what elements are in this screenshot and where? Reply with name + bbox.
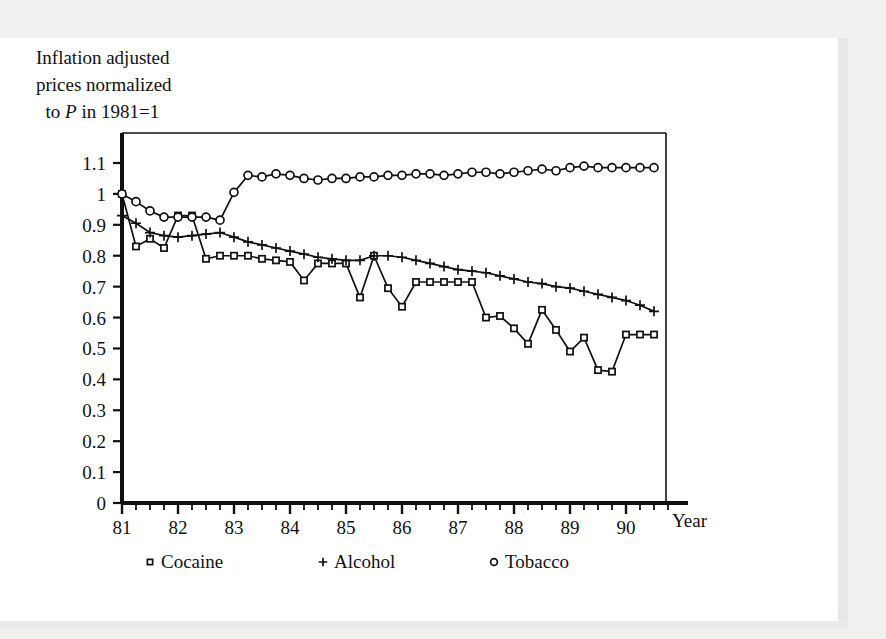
marker-circle xyxy=(412,170,420,178)
marker-circle xyxy=(608,164,616,172)
marker-circle xyxy=(552,167,560,175)
marker-square xyxy=(469,279,475,285)
chart-figure: Inflation adjusted prices normalized to … xyxy=(0,0,886,639)
marker-circle xyxy=(566,164,574,172)
marker-square xyxy=(553,327,559,333)
marker-square xyxy=(483,314,489,320)
series-tobacco xyxy=(118,162,658,224)
marker-circle xyxy=(118,190,126,198)
legend-label: Alcohol xyxy=(334,551,395,572)
marker-circle xyxy=(188,213,196,221)
x-tick-label: 81 xyxy=(113,517,132,538)
marker-plus xyxy=(257,240,267,250)
marker-square xyxy=(525,341,531,347)
y-tick-label: 0.5 xyxy=(82,338,106,359)
legend-item-tobacco: Tobacco xyxy=(491,551,569,572)
marker-circle xyxy=(440,171,448,179)
y-tick-label: 0.4 xyxy=(82,369,106,390)
marker-plus xyxy=(243,237,253,247)
y-tick-label: 0.2 xyxy=(82,431,106,452)
marker-square xyxy=(581,335,587,341)
marker-circle xyxy=(622,164,630,172)
y-axis-tick-labels: 00.10.20.30.40.50.60.70.80.911.1 xyxy=(82,153,106,514)
marker-circle xyxy=(174,213,182,221)
marker-square xyxy=(399,304,405,310)
marker-square xyxy=(595,367,601,373)
marker-circle xyxy=(286,171,294,179)
legend-item-cocaine: Cocaine xyxy=(147,551,223,572)
marker-square xyxy=(511,325,517,331)
y-tick-label: 0.1 xyxy=(82,462,106,483)
marker-square xyxy=(455,279,461,285)
marker-plus xyxy=(565,283,575,293)
axes xyxy=(122,133,688,503)
marker-plus xyxy=(649,306,659,316)
marker-plus xyxy=(201,229,211,239)
marker-circle xyxy=(594,164,602,172)
marker-plus xyxy=(453,265,463,275)
marker-square xyxy=(217,253,223,259)
marker-circle xyxy=(384,171,392,179)
marker-circle xyxy=(328,174,336,182)
marker-plus xyxy=(355,255,365,265)
marker-circle xyxy=(342,174,350,182)
y-tick-label: 0.9 xyxy=(82,215,106,236)
marker-plus xyxy=(319,558,328,567)
marker-square xyxy=(497,313,503,319)
x-tick-label: 82 xyxy=(169,517,188,538)
marker-square xyxy=(287,259,293,265)
x-tick-label: 87 xyxy=(449,517,468,538)
x-tick-label: 90 xyxy=(617,517,636,538)
marker-circle xyxy=(426,170,434,178)
series-line-alcohol xyxy=(122,216,654,312)
marker-plus xyxy=(229,232,239,242)
marker-square xyxy=(273,257,279,263)
y-tick-label: 1.1 xyxy=(82,153,106,174)
marker-plus xyxy=(187,231,197,241)
data-series xyxy=(117,162,659,375)
y-tick-label: 0.7 xyxy=(82,277,106,298)
marker-circle xyxy=(636,164,644,172)
y-tick-label: 0 xyxy=(97,493,107,514)
legend-label: Tobacco xyxy=(505,551,569,572)
y-tick-label: 0.8 xyxy=(82,246,106,267)
marker-circle xyxy=(216,216,224,224)
marker-square xyxy=(427,279,433,285)
x-axis-title: Year xyxy=(672,510,708,531)
marker-circle xyxy=(370,173,378,181)
marker-circle xyxy=(580,162,588,170)
marker-circle xyxy=(146,207,154,215)
marker-plus xyxy=(481,268,491,278)
marker-circle xyxy=(160,213,168,221)
marker-square xyxy=(231,253,237,259)
y-tick-label: 0.3 xyxy=(82,400,106,421)
marker-circle xyxy=(202,213,210,221)
marker-square xyxy=(567,348,573,354)
series-line-cocaine xyxy=(122,194,654,372)
marker-square xyxy=(651,331,657,337)
marker-square xyxy=(441,279,447,285)
marker-square xyxy=(413,279,419,285)
marker-plus xyxy=(299,249,309,259)
marker-plus xyxy=(607,292,617,302)
marker-circle xyxy=(314,176,322,184)
marker-circle xyxy=(300,174,308,182)
marker-circle xyxy=(398,171,406,179)
chart-legend: CocaineAlcoholTobacco xyxy=(147,551,569,572)
marker-square xyxy=(623,331,629,337)
marker-plus xyxy=(509,274,519,284)
marker-circle xyxy=(650,164,658,172)
marker-plus xyxy=(411,255,421,265)
x-tick-label: 85 xyxy=(337,517,356,538)
marker-circle xyxy=(491,559,498,566)
marker-plus xyxy=(467,266,477,276)
marker-square xyxy=(539,307,545,313)
marker-circle xyxy=(524,167,532,175)
x-axis-tick-labels: 81828384858687888990 xyxy=(113,517,636,538)
marker-square xyxy=(385,285,391,291)
marker-plus xyxy=(215,228,225,238)
marker-circle xyxy=(482,168,490,176)
marker-square xyxy=(147,559,152,564)
marker-plus xyxy=(523,277,533,287)
marker-square xyxy=(203,256,209,262)
